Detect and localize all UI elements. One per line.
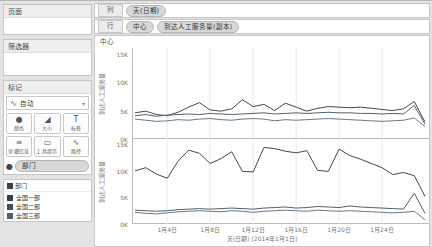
mark-type-label: 自动	[20, 98, 82, 108]
mark-button-label[interactable]: T标签	[63, 113, 89, 134]
chevron-down-icon: ▾	[82, 100, 85, 107]
legend-item[interactable]: 全国三部	[4, 211, 91, 220]
y-tick-label: 10K	[116, 79, 128, 86]
mark-button-label: 颜色	[14, 124, 25, 131]
y-tick-label: 5K	[120, 194, 128, 201]
left-sidebar: 页面 筛选器 标记 ∿ 自动 ▾ ●颜色◢大小T标签≡详细信息▭工具提示∿路径 …	[0, 1, 94, 247]
x-tick-label: 1月12日	[241, 225, 264, 234]
y-axis-title: 到达人工服务量	[95, 48, 106, 139]
mark-type-dropdown[interactable]: ∿ 自动 ▾	[6, 96, 89, 110]
mark-button-size[interactable]: ◢大小	[34, 113, 60, 134]
sheet-dimension-header: 中心	[95, 36, 429, 48]
legend-title: 部门	[15, 181, 27, 190]
mark-button-color[interactable]: ●颜色	[6, 113, 32, 134]
x-tick-label: 1月20日	[327, 225, 350, 234]
series-line[interactable]	[135, 118, 425, 127]
size-icon: ◢	[44, 115, 50, 124]
legend-item[interactable]: 全国二部	[4, 202, 91, 211]
mark-button-label: 工具提示	[37, 147, 59, 154]
marks-color-shelf: ● 部门	[6, 160, 89, 172]
legend-swatch-icon	[7, 204, 13, 210]
mark-button-label: 路径	[70, 147, 81, 154]
color-shelf-pill[interactable]: 部门	[15, 160, 89, 172]
color-legend-card: 部门 全国一部全国二部全国三部	[3, 179, 92, 222]
plot-area[interactable]	[132, 48, 429, 139]
y-tick-label: 5K	[120, 107, 128, 114]
mark-buttons: ●颜色◢大小T标签≡详细信息▭工具提示∿路径	[6, 113, 89, 157]
plot-area[interactable]	[132, 139, 429, 224]
color-icon: ●	[16, 115, 23, 124]
rows-shelf-pills: 中心到达人工服务量(副本)	[126, 21, 239, 33]
line-chart-svg	[133, 48, 429, 139]
y-axis-title: 到达人工服务量	[95, 139, 106, 224]
workbook-window: 页面 筛选器 标记 ∿ 自动 ▾ ●颜色◢大小T标签≡详细信息▭工具提示∿路径 …	[0, 1, 432, 247]
y-axis-ticks: 0K5K10K15K	[106, 139, 132, 224]
x-tick-label: 1月24日	[370, 225, 393, 234]
pages-drop-area[interactable]	[4, 18, 91, 34]
pages-card: 页面	[3, 4, 92, 35]
chart-panel: 到达人工服务量0K5K10K15K	[95, 48, 429, 139]
x-axis-tick-labels: 1月4日1月8日1月12日1月16日1月20日1月24日	[133, 224, 429, 234]
x-tick-label: 1月4日	[157, 225, 177, 234]
series-line[interactable]	[135, 210, 425, 220]
pages-card-title: 页面	[4, 5, 91, 18]
filters-drop-area[interactable]	[4, 53, 91, 75]
legend-items: 全国一部全国二部全国三部	[4, 192, 91, 221]
series-line[interactable]	[135, 148, 425, 197]
tooltip-icon: ▭	[44, 138, 52, 147]
y-axis-ticks: 0K5K10K15K	[106, 48, 132, 139]
line-mark-icon: ∿	[10, 99, 17, 108]
y-tick-label: 15K	[116, 50, 128, 57]
legend-swatch-icon	[7, 195, 13, 201]
line-chart-svg	[133, 139, 429, 224]
color-icon: ●	[6, 162, 13, 171]
chart-panel: 到达人工服务量0K5K10K15K	[95, 139, 429, 224]
field-pill[interactable]: 中心	[126, 21, 154, 33]
legend-item-label: 全国一部	[16, 193, 40, 202]
label-icon: T	[73, 115, 78, 124]
legend-item-label: 全国二部	[16, 202, 40, 211]
legend-item-label: 全国三部	[16, 211, 40, 220]
marks-card-title: 标记	[4, 81, 91, 94]
series-line[interactable]	[135, 100, 425, 122]
marks-card: 标记 ∿ 自动 ▾ ●颜色◢大小T标签≡详细信息▭工具提示∿路径 ● 部门	[3, 80, 92, 175]
y-tick-label: 10K	[116, 167, 128, 174]
main-area: 列 天(日期) 行 中心到达人工服务量(副本) 中心 到达人工服务量0K5K10…	[94, 1, 432, 247]
mark-button-path[interactable]: ∿路径	[63, 136, 89, 157]
field-pill[interactable]: 天(日期)	[126, 5, 166, 17]
path-icon: ∿	[72, 138, 79, 147]
mark-button-tooltip[interactable]: ▭工具提示	[34, 136, 60, 157]
x-tick-label: 1月16日	[284, 225, 307, 234]
mark-button-label: 详细信息	[8, 147, 30, 154]
y-tick-label: 0K	[120, 221, 128, 228]
y-axis-title-text: 到达人工服务量	[96, 73, 105, 115]
chart-panels: 到达人工服务量0K5K10K15K到达人工服务量0K5K10K15K	[95, 48, 429, 224]
worksheet: 中心 到达人工服务量0K5K10K15K到达人工服务量0K5K10K15K 1月…	[94, 35, 430, 247]
columns-shelf[interactable]: 列 天(日期)	[94, 3, 430, 18]
legend-title-swatch-icon	[7, 183, 13, 189]
legend-swatch-icon	[7, 213, 13, 219]
marks-card-body: ∿ 自动 ▾ ●颜色◢大小T标签≡详细信息▭工具提示∿路径 ● 部门	[4, 94, 91, 174]
columns-shelf-pills: 天(日期)	[126, 5, 166, 17]
rows-shelf[interactable]: 行 中心到达人工服务量(副本)	[94, 19, 430, 34]
x-tick-label: 1月8日	[200, 225, 220, 234]
rows-shelf-label: 行	[98, 20, 123, 33]
detail-icon: ≡	[16, 138, 23, 147]
mark-button-detail[interactable]: ≡详细信息	[6, 136, 32, 157]
columns-shelf-label: 列	[98, 4, 123, 17]
filters-card: 筛选器	[3, 39, 92, 76]
y-axis-title-text: 到达人工服务量	[96, 161, 105, 203]
filters-card-title: 筛选器	[4, 40, 91, 53]
legend-item[interactable]: 全国一部	[4, 193, 91, 202]
field-pill[interactable]: 到达人工服务量(副本)	[157, 21, 239, 33]
mark-button-label: 标签	[70, 124, 81, 131]
legend-title-row: 部门	[4, 180, 91, 192]
y-tick-label: 15K	[116, 141, 128, 148]
mark-button-label: 大小	[42, 124, 53, 131]
x-axis-caption: 天(日期) [2014年1月1日]	[95, 234, 429, 244]
